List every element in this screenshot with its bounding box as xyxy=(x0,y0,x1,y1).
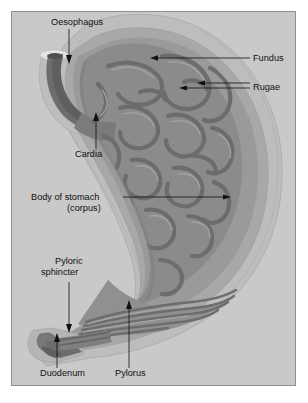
label-rugae: Rugae xyxy=(253,82,280,92)
label-pylorus: Pylorus xyxy=(115,368,146,378)
label-oesophagus: Oesophagus xyxy=(51,17,104,27)
label-cardia: Cardia xyxy=(75,149,103,159)
stomach-diagram-svg: Oesophagus Fundus Rugae xyxy=(12,12,295,385)
label-pyloric-sphincter-line2: sphincter xyxy=(41,267,78,277)
oesophagus-lumen-opening xyxy=(47,53,63,59)
annotation-pyloric-sphincter: Pyloric sphincter xyxy=(41,256,83,333)
stomach-illustration: Oesophagus Fundus Rugae xyxy=(28,14,284,378)
label-body-of-stomach: Body of stomach xyxy=(31,192,99,202)
label-fundus: Fundus xyxy=(253,53,284,63)
label-pyloric-sphincter: Pyloric xyxy=(55,256,83,266)
label-body-of-stomach-corpus: (corpus) xyxy=(67,203,101,213)
figure-root: Oesophagus Fundus Rugae xyxy=(0,0,308,403)
diagram-panel: Oesophagus Fundus Rugae xyxy=(11,11,296,386)
label-duodenum: Duodenum xyxy=(40,368,85,378)
